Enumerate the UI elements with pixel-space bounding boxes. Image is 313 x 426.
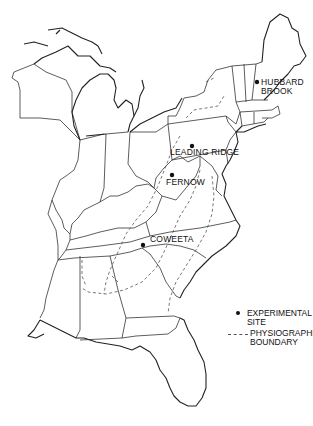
site-label-brook: BROOK	[261, 87, 304, 96]
new-york-outline	[168, 66, 240, 124]
physiographic-boundary-ny	[186, 78, 224, 118]
florida-top-border	[122, 318, 180, 338]
site-label-coweeta: COWEETA	[150, 235, 194, 244]
legend-label-experimental-site: EXPERIMENTAL SITE	[247, 309, 313, 327]
legend-item-experimental-site: EXPERIMENTAL SITE	[228, 309, 313, 327]
illinois-outline	[52, 134, 104, 234]
ny-coast	[236, 124, 266, 132]
great-lakes-east	[130, 80, 182, 132]
mid-atlantic-coast	[222, 132, 238, 220]
nc-sc-coast	[180, 220, 240, 298]
legend-dot-icon	[228, 309, 247, 318]
site-label-hubbard-brook: HUBBARD BROOK	[261, 78, 304, 96]
virginia-ky-border	[146, 196, 162, 236]
kentucky-outline	[66, 184, 154, 250]
site-dot-coweeta	[141, 243, 145, 247]
indiana-outline	[100, 132, 128, 202]
alabama-outline	[76, 256, 126, 340]
louisiana-coast	[28, 320, 44, 338]
site-label-leading-ridge: LEADING RIDGE	[170, 148, 239, 157]
mississippi-river	[40, 200, 58, 318]
ohio-outline	[128, 124, 168, 188]
map-eastern-us: HUBBARD BROOK LEADING RIDGE FERNOW COWEE…	[0, 0, 313, 426]
nc-sc-border	[150, 244, 206, 258]
legend-item-physiographic-boundary: PHYSIOGRAPHIC BOUNDARY	[228, 329, 313, 347]
physiographic-boundary-1	[104, 136, 180, 294]
legend-dashed-line-icon	[228, 329, 250, 338]
upper-michigan-outline	[24, 28, 116, 72]
map-outline	[0, 0, 313, 426]
michigan-outline	[72, 74, 134, 140]
legend: EXPERIMENTAL SITE PHYSIOGRAPHIC BOUNDARY	[228, 309, 313, 347]
site-dot-hubbard-brook	[255, 80, 259, 84]
site-label-fernow: FERNOW	[166, 178, 205, 187]
georgia-outline	[126, 248, 180, 318]
wisconsin-outline	[12, 64, 80, 140]
mass-ct-borders	[236, 102, 280, 126]
legend-label-boundary: BOUNDARY	[250, 338, 313, 347]
